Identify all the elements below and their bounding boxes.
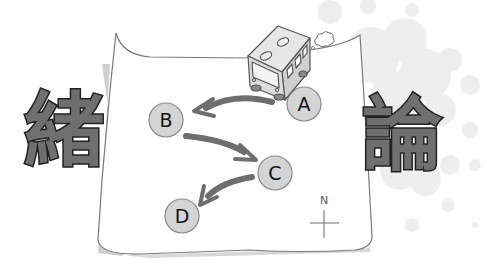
map-sheet bbox=[98, 33, 372, 254]
title-kanji-left: 緒 bbox=[24, 84, 104, 177]
title-kanji-right: 論 bbox=[362, 88, 442, 181]
node-label-b: B bbox=[159, 109, 172, 131]
route-node-c: C bbox=[258, 156, 292, 190]
node-label-a: A bbox=[298, 93, 311, 115]
illustration: A B C D bbox=[0, 0, 487, 275]
node-label-c: C bbox=[268, 162, 281, 184]
route-node-d: D bbox=[165, 199, 199, 233]
compass-label: N bbox=[320, 194, 328, 207]
node-label-d: D bbox=[175, 205, 190, 227]
exhaust-puff-icon bbox=[315, 32, 334, 47]
route-node-b: B bbox=[149, 103, 183, 137]
